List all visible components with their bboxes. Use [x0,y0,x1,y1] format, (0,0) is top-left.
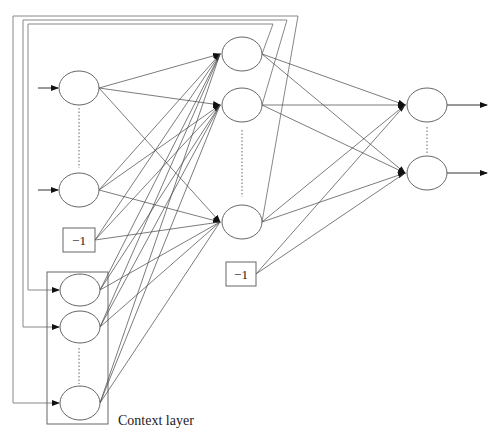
context-node-1 [60,274,100,306]
input-to-hidden-connections [95,54,220,403]
input-arrows [38,88,58,190]
output-node-1 [407,88,447,122]
hidden-to-output-connections [256,54,405,274]
hidden-node-1 [222,37,262,71]
ellipsis-dots [79,108,427,384]
hidden-bias-label: −1 [234,267,248,282]
output-node-2 [407,156,447,190]
hidden-node-3 [222,205,262,239]
context-layer-label: Context layer [118,413,194,428]
context-node-2 [60,311,100,343]
input-bias-label: −1 [72,233,86,248]
context-node-3 [60,386,100,420]
output-arrows [447,105,487,173]
elman-network-diagram: −1 −1 Context layer [0,0,500,438]
input-node-2 [59,173,99,207]
input-node-1 [59,71,99,105]
hidden-node-2 [222,88,262,122]
